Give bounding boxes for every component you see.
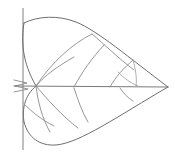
figure-background — [0, 0, 175, 156]
leaf-drawing-canvas — [0, 0, 175, 156]
leaf-diagram-figure — [0, 0, 175, 156]
